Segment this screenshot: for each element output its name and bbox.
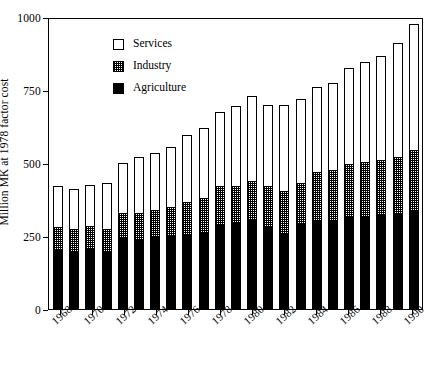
bar-segment-services — [166, 147, 176, 207]
bar-1969 — [69, 189, 79, 309]
bar-segment-services — [85, 185, 95, 226]
bar-1980 — [247, 96, 257, 309]
bar-segment-services — [69, 189, 79, 228]
bar-segment-agriculture — [69, 251, 79, 309]
bar-segment-services — [360, 62, 370, 161]
bar-segment-industry — [344, 164, 354, 215]
chart-figure: Million MK at 1978 factor cost 025050075… — [0, 0, 436, 371]
bar-segment-industry — [376, 160, 386, 214]
bar-segment-agriculture — [328, 221, 338, 309]
bar-segment-services — [182, 135, 192, 202]
bar-segment-industry — [328, 170, 338, 221]
y-tick-label: 1000 — [17, 12, 41, 24]
bar-segment-agriculture — [312, 221, 322, 309]
bar-1982 — [279, 105, 289, 309]
checkered-square-icon — [113, 61, 124, 72]
bar-segment-industry — [166, 207, 176, 236]
y-tick-mark — [43, 91, 48, 92]
bar-segment-services — [134, 157, 144, 212]
bar-segment-agriculture — [231, 223, 241, 309]
bars-container — [49, 17, 422, 309]
bar-segment-services — [102, 183, 112, 228]
bar-segment-agriculture — [344, 216, 354, 309]
bar-segment-services — [150, 153, 160, 210]
y-tick-mark — [43, 310, 48, 311]
bar-segment-services — [409, 24, 419, 150]
plot-area — [48, 18, 423, 310]
bar-segment-services — [263, 105, 273, 187]
bar-segment-agriculture — [263, 227, 273, 309]
bar-1984 — [312, 87, 322, 309]
y-tick-mark — [43, 237, 48, 238]
legend-item-services: Services — [113, 33, 186, 55]
bar-1975 — [166, 147, 176, 309]
bar-1986 — [344, 68, 354, 309]
y-tick-label: 250 — [23, 231, 41, 243]
bar-1970 — [85, 185, 95, 309]
bar-segment-agriculture — [53, 249, 63, 309]
bar-1973 — [134, 157, 144, 309]
bar-segment-industry — [150, 210, 160, 238]
bar-1979 — [231, 106, 241, 309]
bar-segment-agriculture — [409, 210, 419, 309]
bar-segment-services — [328, 83, 338, 171]
bar-segment-industry — [296, 183, 306, 224]
bar-segment-industry — [263, 186, 273, 227]
bar-segment-services — [344, 68, 354, 164]
legend-label-industry: Industry — [133, 60, 171, 72]
bar-segment-services — [312, 87, 322, 172]
open-square-icon — [113, 39, 124, 50]
bar-segment-industry — [279, 191, 289, 233]
bar-1977 — [199, 128, 209, 309]
bar-1989 — [393, 43, 403, 309]
bar-segment-industry — [231, 186, 241, 223]
bar-segment-agriculture — [150, 237, 160, 309]
bar-1971 — [102, 183, 112, 309]
bar-segment-industry — [409, 150, 419, 210]
bar-segment-industry — [134, 213, 144, 239]
bar-segment-services — [199, 128, 209, 198]
bar-segment-services — [247, 96, 257, 181]
y-tick-label: 500 — [23, 158, 41, 170]
bar-segment-agriculture — [166, 236, 176, 309]
bar-1981 — [263, 105, 273, 309]
bar-segment-industry — [118, 213, 128, 238]
bar-1972 — [118, 163, 128, 309]
bar-1978 — [215, 112, 225, 309]
legend-item-industry: Industry — [113, 55, 186, 77]
bar-segment-industry — [393, 157, 403, 212]
y-tick-mark — [43, 164, 48, 165]
bar-segment-industry — [199, 198, 209, 233]
bar-1988 — [376, 56, 386, 309]
chart-legend: Services Industry Agriculture — [113, 33, 186, 99]
bar-segment-industry — [102, 229, 112, 252]
legend-label-agriculture: Agriculture — [133, 82, 186, 94]
legend-label-services: Services — [133, 38, 172, 50]
bar-segment-services — [231, 106, 241, 186]
bar-segment-services — [376, 56, 386, 160]
bar-segment-services — [215, 112, 225, 186]
bar-segment-industry — [53, 227, 63, 249]
bar-segment-agriculture — [199, 233, 209, 309]
legend-item-agriculture: Agriculture — [113, 77, 186, 99]
bar-segment-agriculture — [296, 224, 306, 309]
bar-segment-agriculture — [393, 213, 403, 309]
y-tick-label: 0 — [35, 304, 41, 316]
bar-segment-agriculture — [85, 248, 95, 309]
bar-segment-industry — [247, 181, 257, 220]
bar-segment-industry — [69, 229, 79, 251]
bar-segment-agriculture — [360, 216, 370, 309]
bar-1985 — [328, 83, 338, 309]
bar-segment-agriculture — [279, 233, 289, 309]
y-tick-label: 750 — [23, 85, 41, 97]
bar-segment-agriculture — [102, 252, 112, 309]
bar-segment-industry — [360, 162, 370, 216]
bar-segment-services — [53, 186, 63, 227]
bar-1990 — [409, 24, 419, 309]
bar-segment-industry — [312, 172, 322, 222]
bar-segment-agriculture — [376, 214, 386, 309]
bar-segment-industry — [182, 202, 192, 234]
bar-segment-services — [393, 43, 403, 157]
bar-1976 — [182, 135, 192, 309]
bar-1987 — [360, 62, 370, 309]
